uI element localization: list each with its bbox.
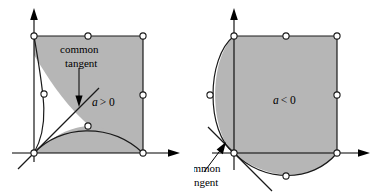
common-tangent-label-line2: tangent (65, 57, 97, 69)
node-marker (31, 33, 37, 39)
x-axis-arrowhead (168, 149, 180, 157)
common-tangent-label-line2: tangent (194, 176, 218, 188)
common-tangent-label-line1: common (60, 43, 99, 55)
node-marker (85, 33, 91, 39)
figure-container: common tangent a> 0 (0, 0, 388, 192)
annotation-pointer-arrowhead (217, 142, 226, 154)
common-tangent-label-line1: common (194, 162, 221, 174)
node-marker (85, 123, 91, 129)
node-marker (334, 92, 340, 98)
node-marker (207, 92, 213, 98)
panel-a-negative: a< 0 common tangent (194, 0, 388, 192)
y-axis-arrowhead (30, 8, 38, 20)
node-marker (334, 150, 340, 156)
case-label-a-positive: a> 0 (92, 96, 115, 108)
node-marker (31, 150, 37, 156)
x-axis-arrowhead (358, 149, 370, 157)
node-marker (140, 92, 146, 98)
node-marker (283, 33, 289, 39)
node-marker (231, 150, 237, 156)
node-marker (41, 91, 47, 97)
node-marker (231, 33, 237, 39)
case-label-relation: < 0 (281, 94, 296, 106)
y-axis-arrowhead (230, 8, 238, 20)
node-marker (283, 173, 289, 179)
node-marker (140, 150, 146, 156)
case-label-variable: a (92, 96, 98, 108)
node-marker (334, 33, 340, 39)
case-label-a-negative: a< 0 (273, 94, 296, 106)
node-marker (140, 33, 146, 39)
case-label-variable: a (273, 94, 279, 106)
panel-a-positive: common tangent a> 0 (0, 0, 194, 192)
case-label-relation: > 0 (100, 96, 115, 108)
